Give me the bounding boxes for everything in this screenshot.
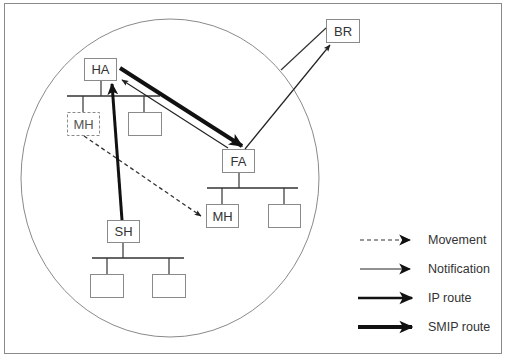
legend-item-smip-route: SMIP route: [358, 320, 490, 334]
legend-item-movement: Movement: [360, 233, 487, 247]
diagram-frame: [5, 4, 502, 354]
sh-label: SH: [114, 224, 132, 239]
br-link: [281, 28, 326, 70]
fa-node: FA: [223, 150, 255, 173]
sh-subnet: [92, 243, 184, 274]
ha-label: HA: [91, 62, 109, 77]
fa-subnet-host: [269, 205, 301, 228]
legend-label-ip-route: IP route: [428, 291, 472, 305]
mobile-ip-diagram: HA MH FA MH SH BR: [0, 0, 506, 359]
fa-subnet: [207, 172, 298, 204]
legend-label-smip-route: SMIP route: [428, 320, 490, 334]
mh-old-node: MH: [68, 113, 100, 136]
sh-subnet-host-2: [153, 275, 186, 298]
ha-subnet-host: [129, 113, 162, 136]
legend-label-movement: Movement: [428, 233, 487, 247]
movement-arrow: [84, 136, 201, 216]
sh-subnet-host-1: [91, 275, 124, 298]
mh-old-label: MH: [73, 117, 93, 132]
ip-route-arrow: [112, 84, 122, 220]
ha-node: HA: [85, 59, 117, 81]
mh-new-node: MH: [207, 205, 239, 228]
notification-arrow-fa-br: [245, 45, 330, 149]
br-node: BR: [327, 20, 360, 43]
legend: Movement Notification IP route SMIP rout…: [358, 233, 490, 334]
fa-label: FA: [231, 154, 247, 169]
sh-node: SH: [108, 221, 140, 243]
legend-item-notification: Notification: [360, 262, 490, 276]
legend-label-notification: Notification: [428, 262, 490, 276]
br-label: BR: [334, 24, 352, 39]
mh-new-label: MH: [212, 209, 232, 224]
legend-item-ip-route: IP route: [358, 291, 472, 305]
